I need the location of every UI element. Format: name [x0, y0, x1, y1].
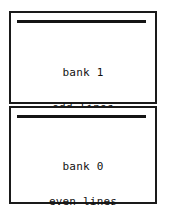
bank-lower-labels: bank 0 even lines 8000 bytes: [11, 138, 155, 216]
memory-bank-lower: bank 0 even lines 8000 bytes: [9, 106, 157, 204]
bank-divider-rule-upper: [17, 20, 146, 23]
bank-upper-name: bank 1: [11, 67, 155, 79]
bank-lower-lines: even lines: [11, 196, 155, 208]
bank-divider-rule-lower: [17, 115, 146, 118]
bank-lower-name: bank 0: [11, 161, 155, 173]
memory-bank-diagram: bank 1 odd lines 8000 bytes bank 0 even …: [0, 0, 172, 216]
memory-bank-upper: bank 1 odd lines 8000 bytes: [9, 11, 157, 104]
